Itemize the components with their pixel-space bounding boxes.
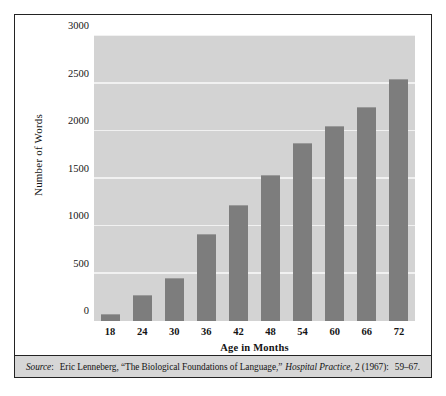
source-rest: , 2 (1967): [350, 362, 388, 372]
bar-slot: 54 [287, 36, 319, 321]
bar-slot: 18 [94, 36, 126, 321]
x-axis-tick-label: 48 [265, 326, 276, 337]
bar-slot: 24 [126, 36, 158, 321]
y-axis-tick-label: 1500 [19, 162, 89, 173]
y-axis-tick-label: 1000 [19, 210, 89, 221]
x-axis-label: Age in Months [94, 342, 415, 353]
x-axis-tick-label: 24 [137, 326, 148, 337]
bar-slot: 30 [158, 36, 190, 321]
bar-slot: 72 [383, 36, 415, 321]
source-journal: Hospital Practice [285, 362, 350, 372]
source-citation: Source:Eric Lenneberg, “The Biological F… [15, 355, 431, 377]
x-axis-tick-label: 18 [105, 326, 116, 337]
bar-series: 18243036424854606672 [94, 36, 415, 321]
x-axis-tick-label: 30 [169, 326, 180, 337]
y-axis-tick-label: 2000 [19, 115, 89, 126]
x-axis-tick-label: 42 [233, 326, 244, 337]
source-colon: : [51, 362, 54, 372]
bar [325, 126, 344, 321]
y-axis-tick-label: 500 [19, 257, 89, 268]
bar [261, 175, 280, 321]
bar [389, 79, 408, 321]
y-axis-tick-label: 0 [19, 305, 89, 316]
y-axis-label: Number of Words [32, 85, 44, 225]
bar [357, 107, 376, 321]
y-axis-tick-label: 2500 [19, 67, 89, 78]
source-prefix: Source [26, 362, 51, 372]
bar [293, 143, 312, 321]
x-axis-tick-label: 36 [201, 326, 212, 337]
bar-slot: 36 [190, 36, 222, 321]
bar-slot: 42 [222, 36, 254, 321]
bar-slot: 66 [351, 36, 383, 321]
bar [197, 234, 216, 321]
y-axis-tick-label: 3000 [19, 20, 89, 31]
figure-panel: Number of Words 050010001500200025003000… [14, 14, 432, 378]
bar [229, 205, 248, 321]
bar-slot: 48 [254, 36, 286, 321]
bar [133, 295, 152, 321]
x-axis-tick-label: 60 [329, 326, 340, 337]
x-axis-tick-label: 54 [297, 326, 308, 337]
bar [165, 278, 184, 321]
x-axis-tick-label: 66 [362, 326, 373, 337]
chart-area: Number of Words 050010001500200025003000… [15, 15, 431, 341]
source-pages: 59–67. [395, 362, 420, 372]
bar-slot: 60 [319, 36, 351, 321]
plot-region: 050010001500200025003000 182430364248546… [94, 36, 415, 321]
x-axis-tick-label: 72 [394, 326, 405, 337]
bar [101, 314, 120, 321]
source-author: Eric Lenneberg, “The Biological Foundati… [60, 362, 283, 372]
